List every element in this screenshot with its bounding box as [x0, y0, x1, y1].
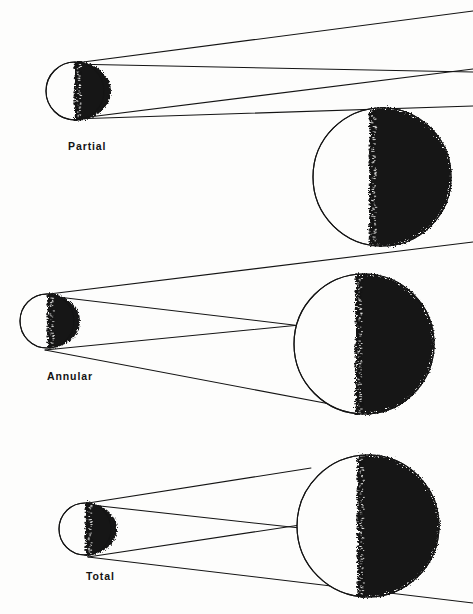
panel-total-earth-stipple-mark: [358, 472, 362, 473]
panel-annular-earth-stipple-mark: [357, 401, 358, 403]
panel-annular-moon-stipple-mark: [47, 324, 51, 326]
panel-total-earth-stipple-mark: [356, 490, 361, 491]
panel-partial-moon-stipple-gap: [79, 110, 81, 111]
panel-total-earth-stipple-gap: [361, 459, 363, 460]
panel-annular-earth-stipple-gap: [360, 327, 361, 328]
panel-partial-moon-stipple-gap: [78, 76, 80, 77]
panel-annular-moon-stipple-mark: [48, 346, 49, 347]
panel-partial-moon-stipple-gap: [78, 67, 80, 68]
panel-partial-earth-stipple-mark: [369, 229, 370, 231]
panel-partial-earth-stipple-mark: [373, 228, 376, 229]
panel-partial-earth-stipple-mark: [371, 196, 374, 198]
panel-total-earth-stipple-mark: [357, 507, 358, 508]
panel-annular-earth-stipple-gap: [358, 286, 359, 287]
panel-total-moon-stipple-gap: [90, 524, 92, 525]
panel-total-earth-stipple-gap: [361, 559, 363, 560]
panel-annular-earth-stipple-mark: [357, 387, 361, 388]
panel-partial-earth-stipple-gap: [374, 186, 375, 187]
panel-annular-earth-stipple-mark: [355, 399, 357, 401]
panel-annular-moon-stipple-gap: [52, 300, 53, 301]
panel-total-earth-stipple-gap: [361, 475, 363, 476]
panel-partial-moon-stipple-gap: [79, 84, 80, 85]
panel-partial-earth-stipple-gap: [375, 127, 377, 128]
panel-partial-moon-stipple-mark: [77, 89, 78, 90]
panel-partial-earth-stipple-mark: [369, 115, 371, 117]
panel-partial-moon-stipple-gap: [78, 78, 80, 79]
panel-annular-label: Annular: [47, 370, 93, 382]
panel-total-earth-stipple-gap: [359, 523, 361, 524]
panel-partial-earth-stipple-gap: [371, 115, 373, 116]
panel-partial-moon-stipple-gap: [79, 85, 81, 86]
panel-total-earth-stipple-mark: [357, 592, 358, 594]
panel-partial-moon-stipple-gap: [80, 95, 82, 96]
panel-partial-earth-stipple-mark: [373, 175, 375, 177]
panel-partial-earth-stipple-gap: [374, 134, 375, 135]
panel-total-earth-stipple-mark: [359, 564, 362, 565]
panel-annular-earth-stipple-mark: [355, 296, 356, 297]
panel-total-moon-stipple-mark: [86, 526, 88, 528]
panel-annular-earth-stipple-gap: [360, 361, 362, 362]
panel-partial-earth-stipple-mark: [371, 132, 374, 133]
panel-partial-earth-stipple-gap: [373, 188, 375, 189]
panel-annular-earth-stipple-gap: [360, 409, 362, 410]
panel-annular-earth-stipple-mark: [356, 280, 359, 282]
panel-partial-earth-stipple-gap: [371, 166, 372, 167]
panel-partial-earth-stipple-mark: [369, 238, 370, 239]
panel-annular-earth-stipple-mark: [354, 291, 356, 293]
panel-total-moon-stipple-gap: [88, 516, 90, 517]
panel-annular-moon-stipple-gap: [53, 311, 55, 312]
panel-partial-earth-stipple-gap: [374, 232, 376, 233]
panel-partial-moon-stipple-mark: [73, 100, 76, 101]
panel-annular-moon-stipple-gap: [50, 330, 52, 331]
panel-partial-earth-stipple-gap: [374, 218, 376, 219]
panel-partial-moon-stipple-mark: [74, 78, 75, 79]
panel-partial-moon-stipple-gap: [77, 101, 79, 102]
panel-partial-earth-stipple-mark: [370, 226, 373, 227]
panel-total-moon-stipple-gap: [91, 545, 92, 546]
panel-partial-earth-stipple-mark: [373, 115, 377, 116]
panel-annular-moon-stipple-mark: [47, 329, 51, 330]
panel-annular-earth-stipple-mark: [359, 389, 360, 391]
panel-total-moon-stipple-gap: [89, 507, 91, 508]
panel-annular-moon-stipple-mark: [50, 319, 54, 321]
panel-annular-earth-stipple-gap: [361, 374, 362, 375]
panel-annular-moon-stipple-mark: [48, 332, 51, 333]
panel-annular-earth-stipple-gap: [358, 363, 360, 364]
panel-partial-earth-stipple-mark: [370, 141, 375, 143]
panel-total-moon-stipple-mark: [84, 528, 85, 529]
panel-annular-earth-stipple-gap: [358, 351, 360, 352]
panel-partial-earth-stipple-gap: [371, 210, 372, 211]
panel-annular-earth-stipple-gap: [359, 317, 360, 318]
panel-total-moon-stipple-mark: [86, 521, 90, 522]
panel-total-earth-stipple-mark: [358, 475, 360, 477]
panel-total-earth-stipple-mark: [359, 573, 361, 574]
panel-total-moon-stipple-gap: [91, 521, 93, 522]
panel-annular-moon-stipple-mark: [51, 315, 55, 317]
panel-total-earth-stipple-gap: [360, 485, 361, 486]
panel-total-earth-stipple-mark: [357, 504, 359, 505]
panel-annular-earth-stipple-mark: [354, 351, 358, 352]
panel-total-moon-stipple-mark: [89, 514, 91, 515]
panel-partial-moon-stipple-gap: [78, 91, 79, 92]
panel-partial-moon-stipple-mark: [77, 76, 79, 78]
panel-partial-moon-stipple-gap: [80, 103, 81, 104]
panel-total-earth-stipple-mark: [359, 508, 360, 510]
panel-annular-earth-stipple-gap: [361, 331, 363, 332]
panel-partial-moon-stipple-gap: [80, 66, 82, 67]
panel-total-earth-stipple-gap: [361, 588, 363, 589]
panel-total-earth-stipple-mark: [357, 513, 359, 514]
panel-annular-earth-stipple-mark: [359, 333, 361, 334]
panel-annular-earth-stipple-mark: [355, 309, 357, 310]
panel-total-earth-stipple-gap: [362, 489, 363, 490]
panel-total-earth-stipple-gap: [363, 558, 364, 559]
panel-partial-earth-stipple-gap: [371, 123, 373, 124]
panel-total-moon-stipple-mark: [86, 549, 87, 551]
panel-partial-moon-stipple-gap: [77, 68, 78, 69]
panel-partial-label: Partial: [68, 140, 106, 152]
panel-total-earth-stipple-gap: [362, 590, 364, 591]
panel-annular-moon-stipple-mark: [46, 295, 48, 297]
panel-partial-earth-stipple-mark: [373, 122, 377, 124]
panel-partial-moon-stipple-mark: [75, 68, 76, 70]
panel-total-earth-stipple-mark: [361, 550, 363, 552]
panel-partial-earth-stipple-gap: [374, 224, 376, 225]
